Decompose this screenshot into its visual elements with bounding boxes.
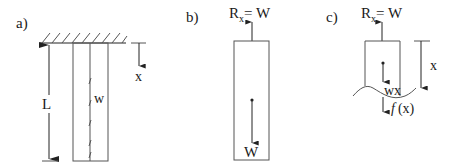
- panel-c-label: c): [326, 9, 338, 26]
- x-axis-label: x: [135, 69, 142, 84]
- reaction-force-label: Rx= W: [361, 5, 403, 24]
- reaction-force-label: Rx= W: [229, 5, 271, 24]
- panel-b: b) Rx= W W: [186, 5, 271, 160]
- partial-weight-label: wx: [384, 83, 401, 98]
- x-dimension-label: x: [430, 58, 437, 73]
- length-label: L: [42, 96, 51, 112]
- panel-a: a) w: [16, 15, 146, 161]
- internal-force-label: f(x): [391, 101, 415, 117]
- x-dimension-arrow: [414, 41, 430, 88]
- panel-b-label: b): [186, 9, 199, 26]
- weight-label: W: [244, 144, 259, 160]
- distributed-load-label: w: [94, 91, 105, 106]
- x-axis-arrow: [131, 43, 146, 66]
- panel-c: c) Rx= W wx f(x) x: [326, 5, 437, 117]
- fixed-support-ceiling: [40, 33, 127, 43]
- panel-a-label: a): [16, 15, 28, 32]
- free-body-diagram: a) w: [0, 0, 450, 168]
